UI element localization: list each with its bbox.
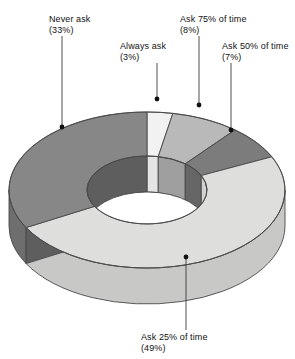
leader-dot-never-ask [60, 125, 65, 130]
slice-label-always-ask: Always ask(3%) [120, 41, 166, 63]
leader-dot-ask-25 [184, 255, 189, 260]
leader-dot-ask-75 [197, 103, 202, 108]
slice-label-value-ask-50: (7%) [222, 52, 289, 63]
slice-label-never-ask: Never ask(33%) [49, 14, 90, 36]
slice-inner-wall-0 [147, 156, 158, 193]
slice-label-name-ask-75: Ask 75% of time [180, 14, 247, 24]
leader-dot-ask-50 [229, 128, 234, 133]
slice-label-name-always-ask: Always ask [120, 41, 166, 51]
slice-label-name-never-ask: Never ask [49, 14, 90, 24]
leader-dot-always-ask [155, 97, 160, 102]
slice-label-name-ask-25: Ask 25% of time [141, 332, 208, 342]
slice-label-ask-75: Ask 75% of time(8%) [180, 14, 247, 36]
slice-label-ask-25: Ask 25% of time(49%) [141, 332, 208, 354]
slice-label-name-ask-50: Ask 50% of time [222, 41, 289, 51]
chart-canvas: Never ask(33%)Always ask(3%)Ask 75% of t… [0, 0, 295, 359]
slice-label-value-always-ask: (3%) [120, 52, 166, 63]
slice-label-value-ask-25: (49%) [141, 343, 208, 354]
slice-label-value-never-ask: (33%) [49, 25, 90, 36]
slice-label-ask-50: Ask 50% of time(7%) [222, 41, 289, 63]
slice-label-value-ask-75: (8%) [180, 25, 247, 36]
